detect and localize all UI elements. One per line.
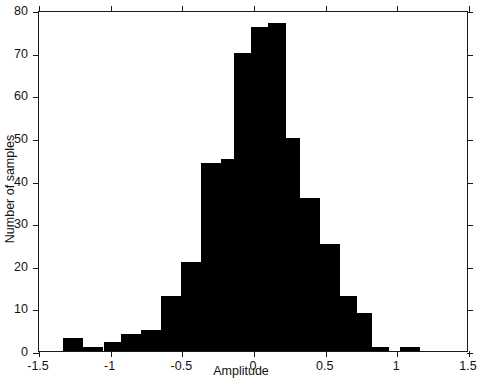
x-axis-tick-top xyxy=(397,6,398,12)
y-axis-tick xyxy=(33,140,39,141)
y-axis-tick xyxy=(33,183,39,184)
y-axis-title: Number of samples xyxy=(3,119,17,259)
plot-area xyxy=(38,11,468,352)
y-axis-tick-right xyxy=(467,310,473,311)
histogram-bar xyxy=(201,163,221,351)
y-tick-label: 10 xyxy=(0,303,28,316)
x-axis-tick-top xyxy=(182,6,183,12)
y-tick-label: 0 xyxy=(0,346,28,359)
histogram-bar xyxy=(83,347,103,351)
histogram-figure: 01020304050607080 -1.5-1-0.500.511.5 Amp… xyxy=(0,0,482,384)
x-axis-tick xyxy=(39,351,40,357)
y-axis-tick-right xyxy=(467,55,473,56)
y-axis-tick xyxy=(33,268,39,269)
x-axis-tick xyxy=(469,351,470,357)
histogram-bar xyxy=(234,53,251,351)
y-axis-tick xyxy=(33,55,39,56)
y-axis-title-wrapper: Number of samples xyxy=(2,100,18,280)
histogram-bar xyxy=(121,334,141,351)
histogram-bar xyxy=(141,330,161,351)
y-axis-tick xyxy=(33,310,39,311)
y-axis-tick-right xyxy=(467,353,473,354)
y-axis-tick-right xyxy=(467,97,473,98)
y-axis-tick xyxy=(33,12,39,13)
histogram-bar xyxy=(63,338,83,351)
y-axis-tick-right xyxy=(467,268,473,269)
x-axis-tick-top xyxy=(469,6,470,12)
histogram-bar xyxy=(320,244,340,351)
y-axis-tick-right xyxy=(467,183,473,184)
histogram-bar xyxy=(286,138,300,351)
histogram-bar xyxy=(300,198,320,351)
histogram-bar xyxy=(161,296,181,351)
y-axis-tick xyxy=(33,97,39,98)
y-axis-tick-right xyxy=(467,12,473,13)
y-tick-label: 80 xyxy=(0,5,28,18)
x-axis-tick-top xyxy=(111,6,112,12)
histogram-bar xyxy=(251,27,268,351)
histogram-bar xyxy=(400,347,420,351)
x-axis-tick-top xyxy=(39,6,40,12)
x-axis-tick xyxy=(254,351,255,357)
y-axis-tick-right xyxy=(467,225,473,226)
histogram-bar xyxy=(221,159,234,351)
y-tick-label: 70 xyxy=(0,48,28,61)
y-axis-tick xyxy=(33,225,39,226)
x-axis-title: Amplitude xyxy=(0,364,482,378)
histogram-bars xyxy=(39,12,467,351)
y-axis-tick-right xyxy=(467,140,473,141)
x-axis-tick-top xyxy=(254,6,255,12)
x-axis-tick xyxy=(111,351,112,357)
histogram-bar xyxy=(340,296,357,351)
x-axis-tick xyxy=(397,351,398,357)
histogram-bar xyxy=(268,23,285,351)
histogram-bar xyxy=(372,347,389,351)
histogram-bar xyxy=(357,313,371,351)
histogram-bar xyxy=(104,342,121,351)
x-axis-tick xyxy=(182,351,183,357)
x-axis-tick-top xyxy=(326,6,327,12)
histogram-bar xyxy=(181,262,201,352)
x-axis-tick xyxy=(326,351,327,357)
